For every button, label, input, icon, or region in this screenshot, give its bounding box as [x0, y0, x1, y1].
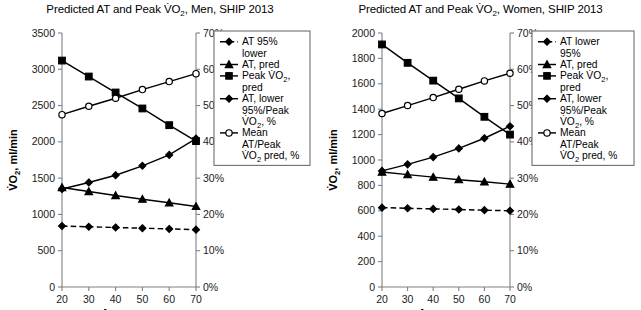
marker-square: [430, 77, 437, 84]
y-tick-label: 200: [357, 255, 375, 267]
series-line-0: [382, 208, 510, 211]
series-line-2: [382, 44, 510, 134]
chart-svg-men: 05001000150020002500300035000%10%20%30%4…: [0, 0, 320, 310]
legend-label-0: lower: [242, 48, 267, 59]
x-tick-label: 20: [376, 293, 388, 305]
legend-label-1: AT, pred: [242, 59, 280, 70]
primary-axes: [382, 33, 510, 287]
x-tick-label: 70: [504, 293, 516, 305]
marker-diamond: [139, 162, 146, 169]
marker-circle: [139, 86, 145, 92]
y-tick-label: 3000: [32, 63, 56, 75]
y-tick-label: 500: [37, 244, 55, 256]
marker-square: [59, 57, 66, 64]
marker-diamond: [59, 223, 66, 230]
marker-diamond: [481, 207, 488, 214]
marker-diamond: [507, 207, 514, 214]
chart-panel-men: Predicted AT and Peak V̇O2, Men, SHIP 20…: [0, 0, 320, 310]
chart-panel-women: Predicted AT and Peak V̇O2, Women, SHIP …: [320, 0, 641, 310]
y-axis-title: V̇O2, ml/min: [7, 129, 22, 191]
marker-diamond: [404, 161, 411, 168]
y2-tick-label: 0%: [517, 281, 532, 293]
y2-tick-label: 30%: [517, 172, 538, 184]
marker-diamond: [112, 224, 119, 231]
chart-svg-women: 02004006008001000120014001600180020000%1…: [320, 0, 641, 310]
marker-diamond: [455, 145, 462, 152]
y-tick-label: 2000: [32, 135, 56, 147]
marker-circle: [112, 95, 118, 101]
marker-square: [544, 73, 550, 79]
y-tick-label: 1000: [32, 208, 56, 220]
marker-diamond: [112, 172, 119, 179]
legend-label-4: AT/Peak: [242, 139, 282, 150]
marker-square: [86, 73, 93, 80]
legend-label-3: AT, lower: [242, 93, 284, 104]
marker-square: [456, 95, 463, 102]
marker-square: [226, 73, 232, 79]
x-tick-label: 30: [402, 293, 414, 305]
y2-tick-label: 20%: [203, 208, 224, 220]
marker-square: [481, 114, 488, 121]
legend-label-3: 95%/Peak: [242, 105, 290, 116]
x-tick-label: 50: [453, 293, 465, 305]
y-tick-label: 3500: [32, 27, 56, 39]
marker-diamond: [455, 206, 462, 213]
marker-circle: [226, 130, 232, 136]
series-line-4: [382, 73, 510, 113]
legend-label-4: Mean: [242, 127, 268, 138]
marker-circle: [430, 94, 436, 100]
legend-label-4: AT/Peak: [560, 139, 600, 150]
x-tick-label: 50: [137, 293, 149, 305]
y-tick-label: 0: [369, 281, 375, 293]
y2-tick-label: 30%: [203, 172, 224, 184]
y-tick-label: 1600: [352, 77, 376, 89]
x-tick-label: 60: [479, 293, 491, 305]
marker-diamond: [166, 151, 173, 158]
x-tick-label: 40: [427, 293, 439, 305]
marker-circle: [166, 78, 172, 84]
marker-circle: [456, 86, 462, 92]
series-line-1: [62, 188, 196, 207]
marker-diamond: [430, 154, 437, 161]
series-line-1: [382, 172, 510, 184]
x-tick-label: 30: [83, 293, 95, 305]
legend-label-1: AT, pred: [560, 59, 598, 70]
marker-diamond: [139, 225, 146, 232]
legend-label-2: pred: [242, 82, 263, 93]
marker-circle: [481, 78, 487, 84]
y-tick-label: 1800: [352, 52, 376, 64]
legend-label-0: AT lower: [560, 36, 600, 47]
series-line-3: [382, 126, 510, 171]
figure-container: Predicted AT and Peak V̇O2, Men, SHIP 20…: [0, 0, 641, 310]
marker-square: [166, 122, 173, 129]
marker-circle: [86, 103, 92, 109]
y2-tick-label: 10%: [203, 244, 224, 256]
y-tick-label: 1200: [352, 128, 376, 140]
marker-diamond: [85, 223, 92, 230]
marker-diamond: [379, 204, 386, 211]
marker-diamond: [404, 205, 411, 212]
x-tick-label: 60: [163, 293, 175, 305]
y2-tick-label: 0%: [203, 281, 218, 293]
marker-diamond: [59, 186, 66, 193]
marker-diamond: [430, 205, 437, 212]
y-axis-title: V̇O2, ml/min: [327, 129, 342, 191]
marker-square: [507, 131, 514, 138]
x-tick-label: 40: [110, 293, 122, 305]
legend-label-0: 95%: [560, 48, 581, 59]
marker-circle: [59, 111, 65, 117]
y-tick-label: 0: [49, 281, 55, 293]
series-line-2: [62, 61, 196, 142]
marker-diamond: [85, 179, 92, 186]
series-line-4: [62, 74, 196, 115]
y-tick-label: 600: [357, 204, 375, 216]
series-line-3: [62, 139, 196, 189]
series-line-0: [62, 226, 196, 230]
y-tick-label: 400: [357, 230, 375, 242]
marker-circle: [379, 110, 385, 116]
marker-circle: [404, 102, 410, 108]
legend-label-0: AT 95%: [242, 36, 278, 47]
y-tick-label: 1400: [352, 103, 376, 115]
legend-label-3: 95%/Peak: [560, 105, 608, 116]
marker-diamond: [166, 225, 173, 232]
